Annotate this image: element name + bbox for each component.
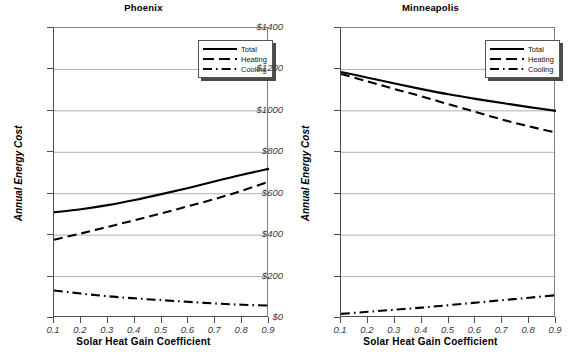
x-tick-mark xyxy=(474,317,475,323)
legend-row-cooling: Cooling xyxy=(490,64,554,74)
x-axis-label: Solar Heat Gain Coefficient xyxy=(0,336,287,347)
x-axis-label: Solar Heat Gain Coefficient xyxy=(287,336,574,347)
y-axis-label: Annual Energy Cost xyxy=(300,94,311,254)
y-tick-mark xyxy=(47,234,53,235)
x-tick-label: 0.1 xyxy=(326,324,354,335)
legend-label-heating: Heating xyxy=(528,55,554,64)
x-tick-label: 0.7 xyxy=(487,324,515,335)
x-tick-label: 0.7 xyxy=(200,324,228,335)
x-tick-label: 0.8 xyxy=(227,324,255,335)
y-tick-label: $1200 xyxy=(223,62,283,73)
x-tick-mark xyxy=(107,317,108,323)
y-tick-mark xyxy=(47,110,53,111)
x-tick-label: 0.2 xyxy=(66,324,94,335)
x-tick-mark xyxy=(80,317,81,323)
y-tick-label: $800 xyxy=(223,145,283,156)
x-tick-label: 0.9 xyxy=(254,324,282,335)
x-tick-mark xyxy=(53,317,54,323)
x-tick-mark xyxy=(555,317,556,323)
legend-label-total: Total xyxy=(241,45,257,54)
legend-swatch-solid-icon xyxy=(203,45,237,53)
panel-title-minneapolis: Minneapolis xyxy=(287,2,574,13)
x-tick-mark xyxy=(421,317,422,323)
panel-phoenix: Phoenix Annual Energy Cost Solar Heat Ga… xyxy=(0,0,287,356)
x-tick-mark xyxy=(214,317,215,323)
y-tick-mark xyxy=(47,151,53,152)
y-tick-mark xyxy=(334,27,340,28)
legend-swatch-dashed-icon xyxy=(490,55,524,63)
x-tick-label: 0.6 xyxy=(460,324,488,335)
panel-title-phoenix: Phoenix xyxy=(0,2,287,13)
y-tick-mark xyxy=(334,110,340,111)
legend-label-cooling: Cooling xyxy=(528,65,553,74)
x-tick-mark xyxy=(340,317,341,323)
legend-minneapolis: Total Heating Cooling xyxy=(485,40,560,78)
x-tick-label: 0.3 xyxy=(380,324,408,335)
y-axis-label: Annual Energy Cost xyxy=(13,94,24,254)
x-tick-label: 0.4 xyxy=(407,324,435,335)
figure-two-panel-line-charts: Phoenix Annual Energy Cost Solar Heat Ga… xyxy=(0,0,574,356)
x-tick-mark xyxy=(134,317,135,323)
x-tick-label: 0.4 xyxy=(120,324,148,335)
y-tick-label: $1000 xyxy=(223,104,283,115)
legend-label-total: Total xyxy=(528,45,544,54)
x-tick-label: 0.9 xyxy=(541,324,569,335)
legend-row-heating: Heating xyxy=(490,54,554,64)
panel-minneapolis: Minneapolis Annual Energy Cost Solar Hea… xyxy=(287,0,574,356)
x-tick-label: 0.5 xyxy=(147,324,175,335)
y-tick-mark xyxy=(334,68,340,69)
x-tick-label: 0.5 xyxy=(434,324,462,335)
x-tick-mark xyxy=(501,317,502,323)
y-tick-mark xyxy=(334,234,340,235)
y-tick-mark xyxy=(47,27,53,28)
legend-swatch-solid-icon xyxy=(490,45,524,53)
x-tick-label: 0.6 xyxy=(173,324,201,335)
x-tick-mark xyxy=(367,317,368,323)
y-tick-label: $200 xyxy=(223,270,283,281)
x-tick-mark xyxy=(394,317,395,323)
y-tick-label: $600 xyxy=(223,187,283,198)
y-tick-mark xyxy=(334,276,340,277)
y-tick-label: $400 xyxy=(223,228,283,239)
series-line-heating xyxy=(341,74,556,133)
series-line-cooling xyxy=(54,290,269,305)
y-tick-mark xyxy=(334,151,340,152)
x-tick-label: 0.3 xyxy=(93,324,121,335)
x-tick-mark xyxy=(448,317,449,323)
y-tick-mark xyxy=(334,193,340,194)
series-line-cooling xyxy=(341,295,556,314)
x-tick-mark xyxy=(528,317,529,323)
y-tick-mark xyxy=(47,68,53,69)
x-tick-mark xyxy=(187,317,188,323)
legend-row-total: Total xyxy=(490,44,554,54)
y-tick-label: $1400 xyxy=(223,21,283,32)
x-tick-label: 0.8 xyxy=(514,324,542,335)
x-tick-mark xyxy=(161,317,162,323)
legend-row-total: Total xyxy=(203,44,267,54)
legend-swatch-dashdot-icon xyxy=(490,65,524,73)
x-tick-label: 0.2 xyxy=(353,324,381,335)
y-tick-mark xyxy=(47,276,53,277)
y-tick-label: $0 xyxy=(223,311,283,322)
x-tick-label: 0.1 xyxy=(39,324,67,335)
y-tick-mark xyxy=(47,193,53,194)
